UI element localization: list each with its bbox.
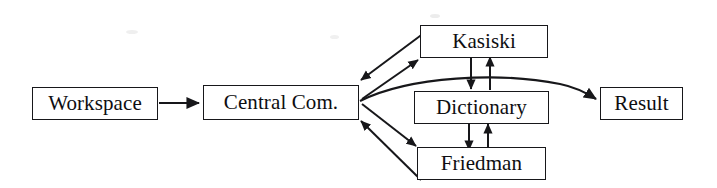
node-kasiski-label: Kasiski (452, 31, 516, 52)
diagram-canvas: Workspace Central Com. Kasiski Dictionar… (0, 0, 717, 188)
edge-friedman-to-central (361, 121, 421, 180)
node-result[interactable]: Result (600, 87, 683, 120)
edge-kasiski-to-central (361, 33, 424, 80)
node-result-label: Result (614, 93, 668, 114)
node-workspace-label: Workspace (48, 93, 142, 114)
node-dictionary[interactable]: Dictionary (414, 91, 549, 124)
node-central-com[interactable]: Central Com. (203, 85, 359, 120)
node-dictionary-label: Dictionary (436, 97, 527, 118)
edge-central-to-friedman (362, 104, 416, 146)
node-kasiski[interactable]: Kasiski (420, 25, 548, 58)
node-workspace[interactable]: Workspace (32, 87, 158, 120)
node-friedman[interactable]: Friedman (417, 147, 546, 180)
node-friedman-label: Friedman (441, 153, 522, 174)
node-central-com-label: Central Com. (224, 92, 338, 113)
edge-central-to-kasiski (362, 60, 418, 99)
